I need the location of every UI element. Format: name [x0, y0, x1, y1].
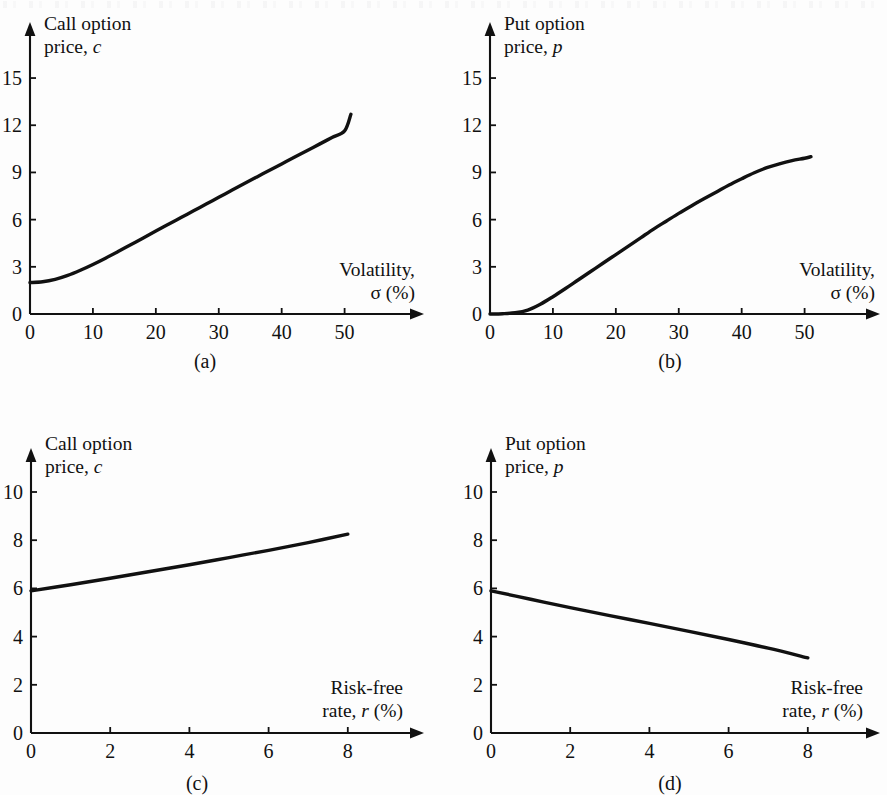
chart-b-x-tick-label: 50 [795, 322, 815, 342]
chart-d-y-axis-variable: p [554, 456, 564, 477]
chart-d-y-tick-label: 6 [457, 578, 483, 598]
chart-b-caption: (b) [658, 350, 681, 372]
chart-a-y-tick-label: 0 [0, 304, 22, 324]
chart-b-x-axis-title-line2: σ (%) [830, 282, 875, 303]
chart-a-x-tick-label: 10 [83, 322, 103, 342]
chart-a-x-axis-title-line2: σ (%) [370, 282, 415, 303]
chart-c-y-tick-label: 8 [0, 530, 23, 550]
chart-b-x-axis-arrow-icon [866, 309, 880, 320]
chart-d-caption: (d) [658, 772, 681, 794]
chart-a-y-axis-title: Call option price, c [44, 12, 131, 58]
chart-c-y-tick-label: 4 [0, 627, 23, 647]
chart-c-series-0-curve [31, 534, 348, 591]
chart-d-y-axis-arrow-icon [486, 448, 497, 462]
chart-a-y-tick-label: 12 [0, 115, 22, 135]
chart-a-x-axis-arrow-icon [410, 309, 424, 320]
chart-c-y-tick-label: 10 [0, 482, 23, 502]
chart-c-y-axis-variable: c [94, 456, 103, 477]
chart-a-x-tick-label: 30 [209, 322, 229, 342]
chart-d-y-tick-label: 4 [457, 627, 483, 647]
chart-c-y-tick-label: 2 [0, 675, 23, 695]
chart-b-y-axis-title-line2-prefix: price, [504, 36, 553, 57]
chart-a-y-tick-label: 15 [0, 68, 22, 88]
chart-c-y-tick-label: 6 [0, 578, 23, 598]
chart-a-x-axis-title-line1: Volatility, [339, 259, 415, 280]
chart-a-y-axis-arrow-icon [25, 22, 36, 36]
chart-a-x-tick-label: 50 [335, 322, 355, 342]
chart-d-y-axis-title-line1: Put option [505, 433, 586, 454]
chart-b-y-tick-label: 9 [456, 162, 482, 182]
chart-a-x-tick-label: 20 [146, 322, 166, 342]
chart-c-x-tick-label: 0 [26, 741, 36, 761]
chart-d-x-axis-title-line1: Risk-free [790, 677, 863, 698]
chart-d-x-axis-title: Risk-free rate, r (%) [695, 676, 863, 722]
chart-a-y-axis-title-line2-prefix: price, [44, 36, 93, 57]
chart-d-y-tick-label: 8 [457, 530, 483, 550]
chart-d-y-axis-title: Put option price, p [505, 432, 586, 478]
chart-b-x-axis-title-line1: Volatility, [799, 259, 875, 280]
chart-c-x-tick-label: 4 [184, 741, 194, 761]
chart-c-y-axis-title-line1: Call option [45, 433, 132, 454]
chart-b-y-axis-title: Put option price, p [504, 12, 585, 58]
chart-c-y-tick-label: 0 [0, 723, 23, 743]
chart-d-y-tick-label: 10 [457, 482, 483, 502]
chart-a-x-tick-label: 40 [272, 322, 292, 342]
chart-d-x-axis-variable: r [821, 700, 829, 721]
chart-b-x-tick-label: 20 [606, 322, 626, 342]
chart-c-x-tick-label: 2 [105, 741, 115, 761]
chart-c-x-tick-label: 8 [343, 741, 353, 761]
chart-d-y-tick-label: 0 [457, 723, 483, 743]
chart-c-x-axis-title: Risk-free rate, r (%) [235, 676, 403, 722]
chart-b-x-axis-title: Volatility, σ (%) [695, 258, 875, 304]
chart-c-caption: (c) [186, 772, 208, 794]
chart-a-y-tick-label: 6 [0, 210, 22, 230]
chart-panel-b: Put option price, p Volatility, σ (%) (b… [440, 0, 887, 380]
chart-c-y-axis-title: Call option price, c [45, 432, 132, 478]
chart-c-y-axis-title-line2-prefix: price, [45, 456, 94, 477]
chart-c-x-tick-label: 6 [264, 741, 274, 761]
chart-a-caption: (a) [194, 350, 216, 372]
chart-c-y-axis-arrow-icon [26, 448, 37, 462]
chart-c-x-axis-variable: r [361, 700, 369, 721]
chart-a-y-axis-title-line1: Call option [44, 13, 131, 34]
chart-d-y-axis-title-line2-prefix: price, [505, 456, 554, 477]
chart-b-y-tick-label: 6 [456, 210, 482, 230]
chart-a-y-tick-label: 3 [0, 257, 22, 277]
chart-panel-a: Call option price, c Volatility, σ (%) (… [0, 0, 440, 380]
chart-d-x-tick-label: 4 [644, 741, 654, 761]
chart-b-x-tick-label: 40 [732, 322, 752, 342]
chart-panel-d: Put option price, p Risk-free rate, r (%… [440, 420, 887, 795]
chart-d-x-tick-label: 0 [486, 741, 496, 761]
chart-b-y-axis-title-line1: Put option [504, 13, 585, 34]
chart-d-x-tick-label: 2 [565, 741, 575, 761]
chart-d-series-0-curve [491, 591, 808, 658]
chart-d-x-tick-label: 8 [803, 741, 813, 761]
chart-b-x-tick-label: 30 [669, 322, 689, 342]
chart-a-y-tick-label: 9 [0, 162, 22, 182]
chart-d-y-tick-label: 2 [457, 675, 483, 695]
chart-d-x-axis-title-line2-prefix: rate, [782, 700, 821, 721]
chart-b-y-tick-label: 12 [456, 115, 482, 135]
chart-panel-c: Call option price, c Risk-free rate, r (… [0, 420, 440, 795]
figure-page: Call option price, c Volatility, σ (%) (… [0, 0, 887, 795]
chart-a-y-axis-variable: c [93, 36, 102, 57]
chart-a-x-tick-label: 0 [25, 322, 35, 342]
chart-b-y-axis-arrow-icon [485, 22, 496, 36]
chart-b-y-axis-variable: p [553, 36, 563, 57]
chart-b-x-tick-label: 10 [543, 322, 563, 342]
chart-c-x-axis-arrow-icon [410, 728, 424, 739]
chart-c-x-axis-title-line2-prefix: rate, [322, 700, 361, 721]
chart-b-y-tick-label: 3 [456, 257, 482, 277]
chart-d-x-tick-label: 6 [724, 741, 734, 761]
chart-a-x-axis-title: Volatility, σ (%) [235, 258, 415, 304]
chart-b-x-tick-label: 0 [485, 322, 495, 342]
chart-d-x-axis-title-line2-suffix: (%) [829, 700, 863, 721]
chart-b-y-tick-label: 0 [456, 304, 482, 324]
chart-d-x-axis-arrow-icon [866, 728, 880, 739]
chart-c-x-axis-title-line2-suffix: (%) [369, 700, 403, 721]
chart-c-x-axis-title-line1: Risk-free [330, 677, 403, 698]
chart-b-y-tick-label: 15 [456, 68, 482, 88]
